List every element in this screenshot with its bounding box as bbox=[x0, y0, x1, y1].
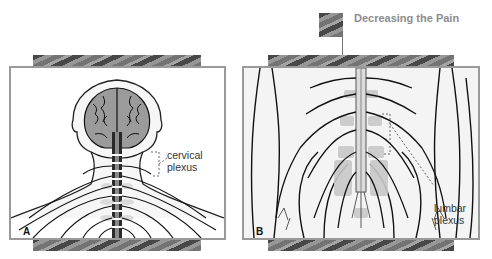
lumbar-plexus-label: lumbar plexus bbox=[434, 202, 466, 226]
panel-a-cervical-plexus: cervical plexus A bbox=[9, 66, 226, 240]
callout-label-line1: lumbar bbox=[434, 202, 466, 214]
cervical-plexus-label: cervical plexus bbox=[167, 149, 203, 173]
panel-b-lumbar-plexus: lumbar plexus B bbox=[242, 66, 480, 240]
panel-letter-a: A bbox=[23, 226, 30, 237]
callout-label-line1: cervical bbox=[167, 149, 203, 161]
panel-letter-b: B bbox=[256, 226, 263, 237]
diagram-title: Decreasing the Pain bbox=[354, 12, 459, 24]
callout-label-line2: plexus bbox=[434, 214, 466, 226]
title-thumbnail-icon bbox=[319, 13, 343, 37]
callout-label-line2: plexus bbox=[167, 161, 203, 173]
